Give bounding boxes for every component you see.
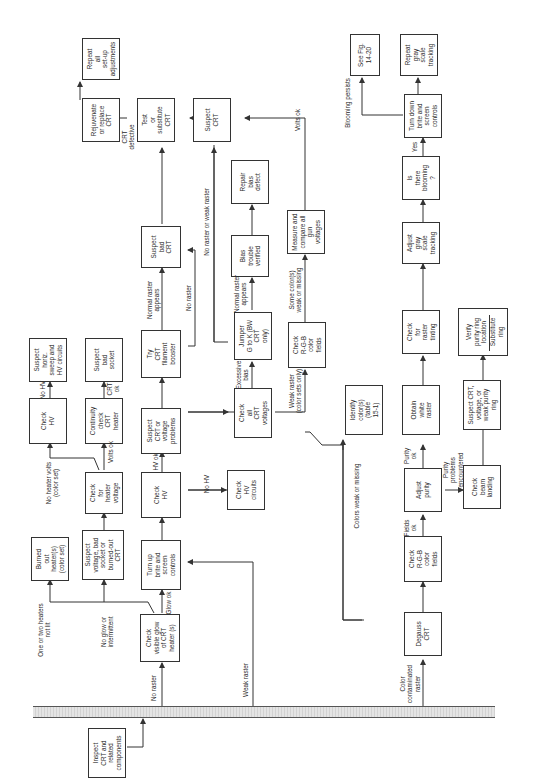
label-no-hv-2: No HV bbox=[203, 475, 210, 494]
box-check-hv-1: Check HV bbox=[29, 398, 67, 444]
box-see-fig: See Fig. 14-20 bbox=[350, 34, 380, 76]
label-no-raster: No raster bbox=[150, 675, 157, 701]
box-check-rgb-fields-1: Check R-G-B color fields bbox=[288, 322, 326, 368]
label-no-raster-2: No raster bbox=[185, 285, 192, 311]
box-check-beam-landing: Check beam landing bbox=[463, 465, 501, 509]
label-volts-ok-1: Volts ok bbox=[107, 441, 114, 463]
label-purity-problems: Purity problems encountered bbox=[442, 452, 464, 487]
label-yes: Yes bbox=[411, 142, 418, 152]
label-weak-raster: Weak raster bbox=[242, 663, 249, 697]
box-suspect-purity-ring: Suspect CRT, voltage, or weak purity rin… bbox=[463, 380, 501, 430]
box-identify-colors: Identify color(s) (table 15-1) bbox=[345, 385, 383, 435]
box-obtain-white-raster: Obtain white raster bbox=[402, 385, 440, 435]
box-suspect-crt-voltage: Suspect CRT or voltage problems bbox=[141, 408, 181, 454]
box-suspect-bad-crt: Suspect bad CRT bbox=[141, 226, 181, 268]
label-weak-raster-color-sets: Weak raster (color sets only) bbox=[288, 369, 303, 413]
crt-troubleshooting-flowchart: Inspect CRT and related components Check… bbox=[0, 0, 533, 782]
label-purity-ok: Purity ok bbox=[403, 448, 418, 464]
label-hv-ok: HV ok bbox=[152, 453, 159, 470]
label-crt-defective: CRT defective bbox=[121, 124, 136, 149]
label-volts-ok-2: Volts ok bbox=[294, 109, 301, 131]
label-no-raster-or-weak: No raster or weak raster bbox=[203, 188, 210, 256]
main-bus-bar bbox=[33, 706, 495, 718]
label-no-heater-volts: No heater volts (color set) bbox=[45, 462, 60, 504]
box-suspect-voltage-socket: Suspect voltage, bad socket or burned-ou… bbox=[82, 530, 124, 580]
box-burned-out-heater: Burned out heater(s) (color set) bbox=[31, 537, 69, 581]
box-repair-bias-defect: Repair bias defect bbox=[231, 160, 269, 204]
box-bias-trouble-verified: Bias trouble verified bbox=[231, 235, 269, 277]
label-crt-ok: CRT ok bbox=[106, 383, 121, 396]
box-turn-up-brite: Turn up brite and screen controls bbox=[141, 540, 181, 590]
label-some-colors-weak: Some color(s) weak or missing bbox=[288, 267, 303, 312]
box-check-hv-2: Check HV bbox=[141, 472, 181, 518]
box-repeat-gray-scale: Repeat gray scale tracking bbox=[400, 34, 438, 76]
box-rejuvenate-replace: Rejuvenate or replace CRT bbox=[82, 98, 120, 142]
box-check-heater-voltage: Check for heater voltage bbox=[85, 472, 123, 514]
box-turn-down-brite: Turn down brite and screen controls bbox=[404, 94, 442, 138]
box-continuity-check: Continuity check CRT heater bbox=[85, 398, 123, 444]
box-check-all-crt-voltages: Check all CRT voltages bbox=[234, 388, 272, 438]
label-color-contaminated: Color contaminated raster bbox=[399, 665, 421, 703]
box-is-there-blooming: Is there blooming ? bbox=[402, 156, 440, 200]
label-fields-ok: Fields ok bbox=[403, 520, 418, 537]
box-check-raster-tinting: Check for raster tinting bbox=[402, 310, 440, 354]
label-normal-raster-2: Normal raster appears bbox=[233, 275, 248, 313]
box-check-rgb-fields-2: Check R-G-B color fields bbox=[404, 536, 442, 582]
box-check-hv-circuits: Check HV circuits bbox=[227, 470, 265, 510]
box-suspect-crt: Suspect CRT bbox=[193, 98, 231, 142]
box-inspect-crt: Inspect CRT and related components bbox=[88, 728, 126, 778]
box-check-heater-glow: Check visible glow of CRT heater (s) bbox=[140, 614, 180, 662]
label-excessive-bias: Excessive bias bbox=[235, 361, 250, 389]
box-suspect-bad-socket: Suspect bad socket bbox=[85, 338, 123, 382]
label-glow-ok: Glow ok bbox=[165, 592, 172, 615]
box-adjust-gray-scale: Adjust gray scale tracking bbox=[402, 222, 440, 264]
label-no-glow: No glow or intermittent bbox=[100, 616, 115, 647]
label-colors-weak-or-missing: Colors weak or missing bbox=[353, 463, 360, 528]
box-verify-purity-ring: Verify purity ring location Substitute r… bbox=[458, 308, 508, 356]
label-normal-raster-1: Normal raster appears bbox=[146, 281, 161, 319]
box-jumper-g-to-k: Jumper G to K (BW CRT only) bbox=[234, 312, 272, 360]
label-blooming-persists: Blooming persists bbox=[344, 78, 351, 128]
label-no-hv-1: No HV bbox=[39, 381, 46, 400]
box-measure-gun-voltages: Measure and compare all gun voltages bbox=[287, 210, 325, 254]
box-try-filament-booster: Try CRT filament booster bbox=[141, 330, 181, 378]
box-suspect-horiz-sweep: Suspect horiz. sweep and HV circuits bbox=[29, 338, 67, 382]
box-test-substitute-crt: Test or substitute CRT bbox=[137, 98, 175, 142]
box-degauss-crt: Degauss CRT bbox=[404, 612, 442, 656]
box-adjust-purity: Adjust purity bbox=[404, 468, 442, 512]
label-one-or-two-heaters: One or two heaters not lit bbox=[37, 603, 52, 657]
box-repeat-setup: Repeat all set-up adjustments bbox=[82, 38, 120, 80]
